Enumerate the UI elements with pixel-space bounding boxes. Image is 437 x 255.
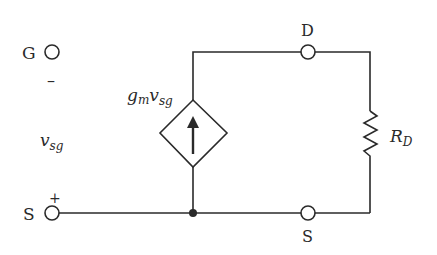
source-left-label: S	[23, 204, 35, 224]
source-terminal-left	[45, 206, 59, 220]
resistor-rd	[364, 111, 377, 213]
circuit-diagram: G – vsg + S D S gmvsg RD	[0, 0, 437, 255]
gate-label: G	[22, 43, 36, 63]
vsg-label: vsg	[40, 130, 64, 153]
minus-sign: –	[47, 71, 55, 90]
source-terminal-right	[301, 206, 315, 220]
arrow-head-icon	[187, 116, 199, 128]
plus-sign: +	[49, 190, 61, 206]
drain-terminal	[301, 45, 315, 59]
drain-label: D	[301, 21, 314, 40]
top-wire	[193, 52, 301, 100]
gate-terminal	[45, 45, 59, 59]
gm-vsg-label: gmvsg	[127, 85, 173, 108]
source-right-label: S	[302, 227, 313, 246]
rd-label: RD	[389, 126, 413, 149]
junction-dot	[189, 209, 197, 217]
top-wire-right	[315, 52, 370, 111]
